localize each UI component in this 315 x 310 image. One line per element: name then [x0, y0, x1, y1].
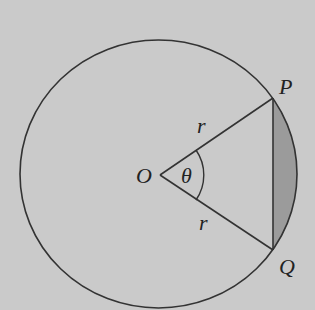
- label-point-q: Q: [279, 254, 295, 279]
- label-radius-lower: r: [199, 210, 208, 235]
- label-point-p: P: [278, 74, 292, 99]
- diagram-canvas: O P Q r r θ: [0, 0, 315, 310]
- radius-oq: [160, 175, 273, 250]
- circle: [20, 40, 297, 308]
- label-radius-upper: r: [197, 113, 206, 138]
- angle-arc: [196, 150, 204, 200]
- circle-diagram: O P Q r r θ: [0, 0, 315, 310]
- label-angle-theta: θ: [181, 163, 192, 188]
- radius-op: [160, 98, 273, 175]
- label-center-o: O: [136, 163, 152, 188]
